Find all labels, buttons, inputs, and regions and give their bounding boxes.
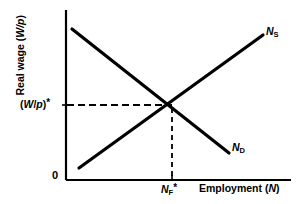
origin-label: 0 <box>52 170 58 181</box>
y-axis-title-text: Real wage ( <box>14 38 26 96</box>
y-axis-tick-label: (W/p)* <box>20 99 50 110</box>
x-axis-title: Employment (N) <box>199 183 280 194</box>
x-axis-title-text: Employment ( <box>199 182 268 194</box>
y-axis-title: Real wage (W/p) <box>15 0 26 111</box>
x-axis-title-close: ) <box>276 182 280 194</box>
x-axis-title-italic: N <box>268 182 276 194</box>
labour-market-diagram: Real wage (W/p) (W/p)* 0 NF* Employment … <box>0 0 297 204</box>
y-axis-title-close: ) <box>14 15 26 19</box>
labour-demand-curve <box>72 29 229 153</box>
y-axis-title-italic: W/p <box>14 18 26 37</box>
labour-demand-curve-label: ND <box>232 142 245 153</box>
labour-supply-curve-label: NS <box>266 26 279 37</box>
x-axis-tick-label: NF* <box>161 184 177 195</box>
